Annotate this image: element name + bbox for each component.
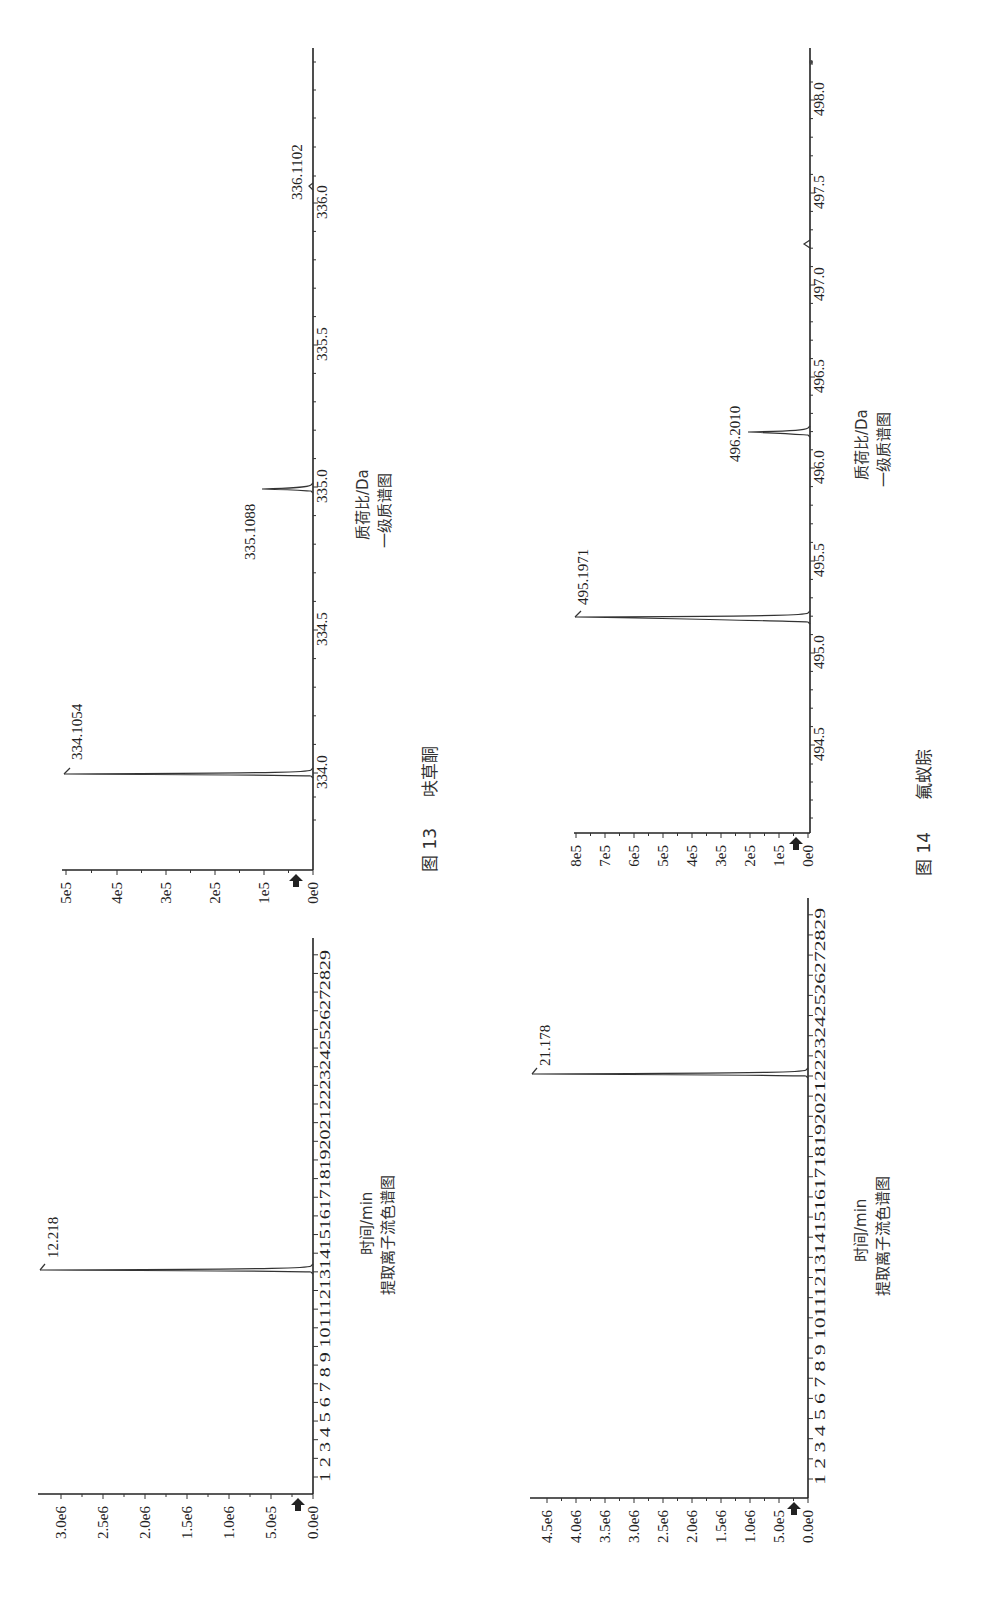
axis-tick-label: 2.0e6 bbox=[137, 1506, 153, 1539]
fig13-chrom-peak-marker bbox=[40, 1264, 45, 1270]
axis-tick-label: 4e5 bbox=[684, 845, 700, 867]
fig13-caption-number: 图 13 bbox=[420, 828, 440, 872]
axis-tick-label: 3e5 bbox=[713, 845, 729, 867]
axis-tick-label: 1.0e6 bbox=[742, 1510, 758, 1543]
fig14-ms-subtitle: 一级质谱图 bbox=[875, 412, 893, 487]
axis-tick-label: 3.0e6 bbox=[53, 1506, 69, 1539]
axis-tick-label: 336.0 bbox=[314, 185, 330, 219]
axis-tick-label: 2e5 bbox=[207, 882, 223, 904]
fig14-ms-peak-label-496: 496.2010 bbox=[727, 406, 743, 462]
axis-tick-label: 3e5 bbox=[158, 882, 174, 904]
fig14-chrom-ticks: 1 2 3 4 5 6 7 8 9 1011121314151617181920… bbox=[539, 908, 828, 1543]
fig13-ms-peak-label-334: 334.1054 bbox=[69, 703, 85, 760]
fig14-ms-peak-495 bbox=[575, 611, 810, 624]
axis-tick-label: 1.0e6 bbox=[221, 1506, 237, 1539]
fig14-ms-xlabel: 质荷比/Da bbox=[853, 409, 871, 480]
fig14-ms-top-marker bbox=[809, 60, 813, 64]
fig14-chrom-subtitle: 提取离子流色谱图 bbox=[874, 1176, 892, 1296]
fig14-ms-peak-496 bbox=[748, 426, 810, 437]
axis-tick-label: 0.0e0 bbox=[305, 1506, 321, 1539]
fig14-ms-chart: 494.5495.0495.5496.0496.5497.0497.5498.0… bbox=[568, 48, 893, 867]
axis-tick-label: 334.5 bbox=[314, 612, 330, 646]
axis-tick-label: 2e5 bbox=[742, 845, 758, 867]
axis-tick-label: 0e0 bbox=[305, 882, 321, 904]
baseline-arrow-icon bbox=[291, 1498, 305, 1511]
axis-tick-label: 0e0 bbox=[800, 845, 816, 867]
axis-tick-label: 4.0e6 bbox=[568, 1510, 584, 1543]
fig14-ms-peak-label-495: 495.1971 bbox=[575, 549, 591, 605]
baseline-arrow-icon bbox=[787, 1502, 801, 1515]
axis-tick-label: 5e5 bbox=[655, 845, 671, 867]
axis-tick-label: 7e5 bbox=[597, 845, 613, 867]
fig14-caption-number: 图 14 bbox=[914, 832, 934, 876]
axis-tick-label: 3.5e6 bbox=[597, 1510, 613, 1543]
fig13-chrom-xlabel: 时间/min bbox=[358, 1192, 376, 1255]
axis-tick-label: 496.0 bbox=[811, 450, 827, 484]
axis-tick-label: 2.5e6 bbox=[95, 1506, 111, 1539]
fig13-ms-peak-335 bbox=[262, 483, 313, 493]
axis-tick-label: 6e5 bbox=[626, 845, 642, 867]
time-axis-tick-labels: 1 2 3 4 5 6 7 8 9 1011121314151617181920… bbox=[317, 950, 333, 1482]
fig13-chrom-subtitle: 提取离子流色谱图 bbox=[379, 1175, 397, 1295]
axis-tick-label: 335.5 bbox=[314, 327, 330, 361]
axis-tick-label: 4e5 bbox=[109, 882, 125, 904]
fig14-ms-ticks: 494.5495.0495.5496.0496.5497.0497.5498.0… bbox=[568, 64, 827, 867]
fig14-chrom-peak-label: 21.178 bbox=[537, 1025, 553, 1066]
axis-tick-label: 497.0 bbox=[811, 267, 827, 301]
axis-tick-label: 498.0 bbox=[811, 82, 827, 116]
fig13-caption-name: 呋草酮 bbox=[420, 746, 440, 797]
fig14-chrom-chart: 1 2 3 4 5 6 7 8 9 1011121314151617181920… bbox=[530, 898, 892, 1543]
axis-tick-label: 5.0e5 bbox=[263, 1506, 279, 1539]
fig13-chrom-peak-label: 12.218 bbox=[45, 1217, 61, 1258]
axis-tick-label: 2.5e6 bbox=[655, 1510, 671, 1543]
axis-tick-label: 334.0 bbox=[314, 755, 330, 789]
axis-tick-label: 496.5 bbox=[811, 359, 827, 393]
figure-page: 334.0334.5335.0335.5336.00e01e52e53e54e5… bbox=[0, 0, 995, 1602]
axis-tick-label: 495.5 bbox=[811, 543, 827, 577]
axis-tick-label: 1e5 bbox=[771, 845, 787, 867]
fig13-ms-chart: 334.0334.5335.0335.5336.00e01e52e53e54e5… bbox=[58, 48, 394, 904]
axis-tick-label: 494.5 bbox=[811, 727, 827, 761]
fig14-caption-name: 氟蚁腙 bbox=[914, 749, 934, 800]
fig13-ms-peak-334 bbox=[64, 768, 313, 778]
axis-tick-label: 1e5 bbox=[256, 882, 272, 904]
axis-tick-label: 1.5e6 bbox=[179, 1506, 195, 1539]
axis-tick-label: 8e5 bbox=[568, 845, 584, 867]
fig13-chrom-peak bbox=[40, 1264, 313, 1274]
fig14-ms-peak-495-marker bbox=[575, 611, 581, 617]
fig14-chrom-peak bbox=[532, 1068, 808, 1078]
axis-tick-label: 0.0e0 bbox=[800, 1510, 816, 1543]
fig13-ms-peak-label-336: 336.1102 bbox=[289, 144, 305, 200]
fig13-chrom-chart: 1 2 3 4 5 6 7 8 9 1011121314151617181920… bbox=[38, 938, 397, 1539]
axis-tick-label: 1.5e6 bbox=[713, 1510, 729, 1543]
axis-tick-label: 5.0e5 bbox=[771, 1510, 787, 1543]
fig13-chrom-ticks: 1 2 3 4 5 6 7 8 9 1011121314151617181920… bbox=[53, 950, 333, 1539]
baseline-arrow-icon bbox=[289, 874, 303, 887]
fig13-ms-subtitle: 一级质谱图 bbox=[376, 473, 394, 548]
axis-tick-label: 4.5e6 bbox=[539, 1510, 555, 1543]
axis-tick-label: 2.0e6 bbox=[684, 1510, 700, 1543]
axis-tick-label: 3.0e6 bbox=[626, 1510, 642, 1543]
axis-tick-label: 497.5 bbox=[811, 175, 827, 209]
axis-tick-label: 495.0 bbox=[811, 635, 827, 669]
time-axis-tick-labels: 1 2 3 4 5 6 7 8 9 1011121314151617181920… bbox=[812, 908, 828, 1485]
fig14-ms-peak-497 bbox=[804, 240, 810, 248]
axis-tick-label: 5e5 bbox=[58, 882, 74, 904]
fig13-ms-peak-label-335: 335.1088 bbox=[242, 504, 258, 560]
fig14-chrom-peak-marker bbox=[532, 1068, 537, 1074]
axis-tick-label: 335.0 bbox=[314, 469, 330, 503]
fig14-chrom-xlabel: 时间/min bbox=[852, 1199, 870, 1262]
fig13-ms-xlabel: 质荷比/Da bbox=[354, 469, 372, 540]
fig13-ms-peak-334-marker bbox=[64, 768, 70, 774]
